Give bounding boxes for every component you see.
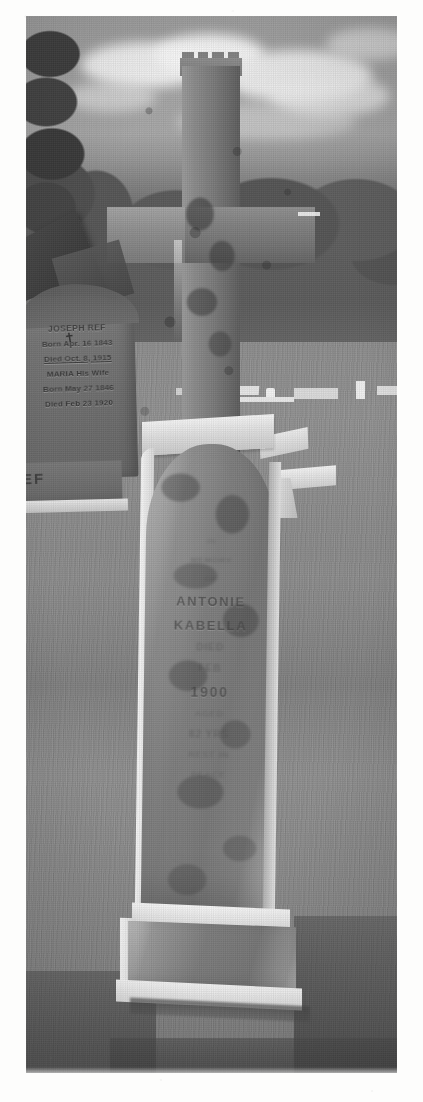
photo-bottom-fade	[26, 1067, 397, 1073]
left-headstone-inscription: JOSEPH REF Born Apr. 16 1843 Died Oct. 8…	[26, 322, 137, 416]
cross-highlight	[174, 240, 182, 344]
inscription-line: REST IN	[149, 750, 269, 761]
left-headstone-base-text: EF	[26, 470, 45, 488]
foreground-arched-headstone: IN MEMORY OF ANTONIE KABELLA DIED FEB 19…	[110, 418, 310, 1018]
inscription-line: MARIA His Wife	[26, 368, 136, 379]
cross-highlight	[298, 212, 320, 216]
cemetery-photograph: ✝ JOSEPH REF Born Apr. 16 1843 Died Oct.…	[26, 16, 397, 1073]
inscription-line: Born May 27 1846	[26, 383, 137, 394]
inscription-line: 1900	[150, 684, 270, 700]
inscription-line: OF	[151, 575, 271, 585]
inscription-line: Died Feb 23 1920	[26, 398, 137, 409]
inscription-line: KABELLA	[150, 618, 270, 633]
inscription-line: JOSEPH REF	[26, 322, 135, 334]
inscription-line: Died Oct. 8, 1915	[26, 353, 136, 364]
inscription-line: AGED	[149, 709, 269, 720]
inscription-line: 82 YRS	[149, 729, 269, 741]
distant-grave-marker	[377, 386, 397, 395]
inscription-line: FEB	[150, 663, 270, 675]
inscription-line: DIED	[150, 642, 270, 654]
main-headstone-inscription: IN MEMORY OF ANTONIE KABELLA DIED FEB 19…	[148, 537, 272, 792]
scanned-page: ✝ JOSEPH REF Born Apr. 16 1843 Died Oct.…	[0, 0, 423, 1102]
inscription-line: MEMORY	[151, 556, 271, 566]
distant-grave-marker	[356, 381, 365, 399]
inscription-line: PEACE	[148, 770, 268, 781]
inscription-line: IN	[152, 537, 272, 547]
inscription-line: Born Apr. 16 1843	[26, 338, 135, 349]
inscription-line: ANTONIE	[151, 594, 271, 609]
